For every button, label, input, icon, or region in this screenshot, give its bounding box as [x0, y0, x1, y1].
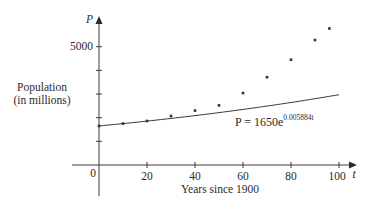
data-point [290, 58, 293, 61]
data-point [146, 120, 149, 123]
population-chart: 20406080100 P t 0 5000 Population (in mi… [0, 0, 371, 209]
y-tick-label-5000: 5000 [70, 40, 93, 52]
model-equation-base: P = 1650e [235, 115, 283, 129]
y-axis-variable: P [85, 13, 93, 25]
data-point [328, 27, 331, 30]
axes [72, 16, 357, 196]
x-tick-label: 100 [328, 170, 346, 182]
x-tick-label: 60 [237, 170, 249, 182]
x-axis-title: Years since 1900 [181, 183, 259, 195]
data-point [194, 109, 197, 112]
origin-label: 0 [90, 167, 96, 179]
data-point [218, 104, 221, 107]
data-point [314, 39, 317, 42]
data-point [122, 122, 125, 125]
x-tick-label: 80 [285, 170, 297, 182]
y-axis-arrow-icon [96, 16, 103, 24]
data-point [242, 92, 245, 95]
model-equation: P = 1650e0.005884t [235, 113, 314, 129]
x-tick-label: 40 [189, 170, 201, 182]
y-axis-title-line2: (in millions) [13, 94, 70, 107]
data-point [98, 125, 101, 128]
x-tick-label: 20 [141, 170, 153, 182]
x-axis-variable: t [352, 168, 356, 180]
model-equation-exponent: 0.005884t [283, 113, 314, 122]
data-point [170, 115, 173, 118]
data-point [266, 76, 269, 79]
y-axis-title-line1: Population [17, 81, 67, 94]
